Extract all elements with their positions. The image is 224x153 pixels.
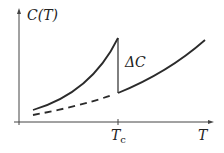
x-axis-label: T	[198, 128, 207, 142]
tc-label: Tc	[111, 128, 126, 145]
delta-c-label: ΔC	[125, 55, 146, 69]
y-axis-label: C(T)	[27, 8, 58, 22]
tc-label-main: T	[111, 127, 120, 143]
tc-label-sub: c	[120, 134, 126, 145]
x-axis-arrow-icon	[208, 120, 214, 124]
y-axis-arrow-icon	[17, 8, 21, 14]
normal-extrapolation-dashed	[33, 95, 112, 115]
superconducting-curve	[33, 38, 118, 110]
